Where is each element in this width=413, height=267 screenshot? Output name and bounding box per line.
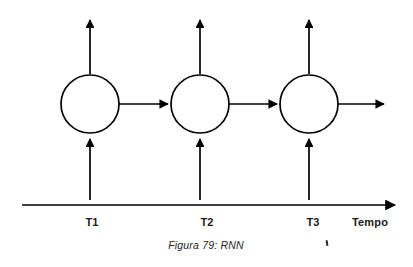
axis-tick-label-t2: T2 [200,216,213,228]
output-arrows-group [90,20,309,74]
figure-caption: Figura 79: RNN [168,239,244,251]
axis-tick-label-t3: T3 [306,216,319,228]
axis-tick-label-t1: T1 [85,216,98,228]
time-axis-label: Tempo [352,216,388,228]
rnn-nodes-group [61,75,338,133]
input-arrows-group [90,139,309,200]
rnn-node-t3[interactable] [280,75,338,133]
rnn-node-t1[interactable] [61,75,119,133]
rnn-figure: T1 T2 T3 Tempo Figura 79: RNN [0,0,413,267]
rnn-node-t2[interactable] [171,75,229,133]
